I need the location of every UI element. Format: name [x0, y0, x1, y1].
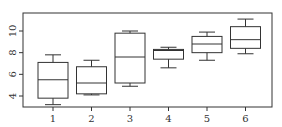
box-3 — [115, 31, 145, 86]
iqr-box — [192, 36, 222, 52]
box-5 — [192, 32, 222, 60]
box-plot: 46810 123456 — [0, 0, 282, 127]
y-tick-label: 10 — [7, 25, 18, 38]
x-tick-label: 2 — [88, 113, 94, 124]
x-tick-label: 1 — [50, 113, 56, 124]
box-4 — [154, 47, 184, 68]
x-axis: 123456 — [50, 107, 249, 124]
box-6 — [231, 19, 261, 54]
box-2 — [77, 60, 107, 95]
iqr-box — [115, 33, 145, 83]
x-tick-label: 4 — [165, 113, 171, 124]
x-tick-label: 5 — [204, 113, 210, 124]
iqr-box — [77, 67, 107, 94]
y-tick-label: 8 — [7, 49, 18, 55]
x-tick-label: 6 — [242, 113, 248, 124]
box-1 — [38, 55, 68, 105]
x-tick-label: 3 — [127, 113, 133, 124]
boxes — [38, 19, 261, 105]
y-tick-label: 6 — [7, 71, 18, 77]
iqr-box — [231, 27, 261, 49]
y-axis: 46810 — [7, 25, 24, 100]
iqr-box — [38, 62, 68, 98]
y-tick-label: 4 — [7, 93, 18, 99]
